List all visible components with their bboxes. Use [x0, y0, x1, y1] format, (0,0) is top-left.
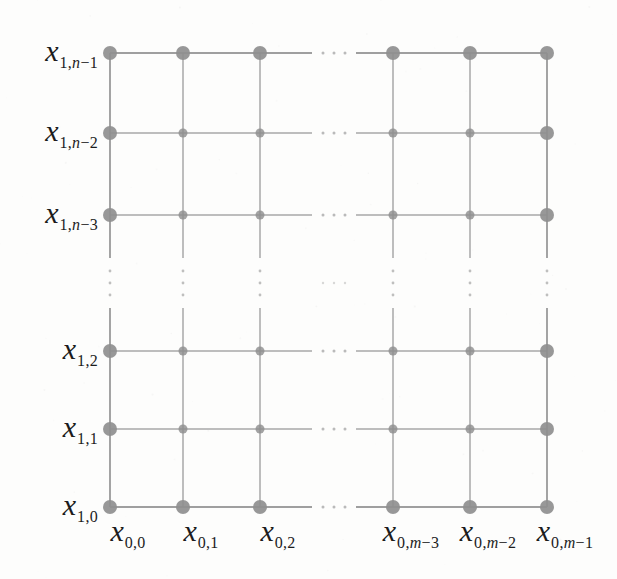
boundary-node [103, 46, 117, 60]
ellipsis-dot [109, 270, 112, 273]
boundary-node [540, 500, 554, 514]
interior-node [389, 211, 398, 220]
ellipsis-dot [322, 214, 325, 217]
grid-lattice-figure: x1,n−1x1,n−2x1,n−3x1,2x1,1x1,0 x0,0x0,1x… [0, 0, 617, 579]
ellipsis-dot [344, 52, 347, 55]
boundary-node [540, 422, 554, 436]
interior-node [466, 211, 475, 220]
boundary-node [103, 500, 117, 514]
grid-nodes-layer [103, 46, 554, 514]
ellipsis-dot [259, 294, 262, 297]
ellipsis-dot [322, 350, 325, 353]
ellipsis-dot [182, 282, 185, 285]
boundary-node [253, 46, 267, 60]
ellipsis-dot [469, 270, 472, 273]
boundary-node [176, 46, 190, 60]
ellipsis-dot [322, 282, 324, 284]
boundary-node [386, 500, 400, 514]
ellipsis-dot [322, 132, 325, 135]
ellipsis-dot [469, 282, 472, 285]
boundary-node [176, 500, 190, 514]
ellipsis-dot [392, 270, 395, 273]
ellipsis-dot [182, 270, 185, 273]
ellipsis-dot [259, 282, 262, 285]
ellipsis-dot [109, 294, 112, 297]
interior-node [389, 129, 398, 138]
boundary-node [103, 208, 117, 222]
interior-node [466, 425, 475, 434]
ellipsis-dot [322, 506, 325, 509]
boundary-node [540, 126, 554, 140]
ellipsis-dot [344, 214, 347, 217]
ellipsis-dot [333, 282, 335, 284]
ellipsis-dot [333, 132, 336, 135]
ellipsis-dot [322, 52, 325, 55]
interior-node [179, 129, 188, 138]
boundary-node [540, 208, 554, 222]
interior-node [256, 129, 265, 138]
ellipsis-dot [333, 52, 336, 55]
ellipsis-dot [546, 270, 549, 273]
column-label-5: x0,m−1 [537, 516, 593, 551]
row-label-5: x1,0 [63, 490, 98, 525]
boundary-node [253, 500, 267, 514]
boundary-node [103, 422, 117, 436]
column-label-4: x0,m−2 [460, 516, 516, 551]
row-label-2: x1,n−3 [45, 198, 98, 233]
ellipsis-dot [333, 214, 336, 217]
ellipsis-dot [344, 428, 347, 431]
grid-lines-layer [110, 53, 547, 507]
ellipsis-dot [546, 282, 549, 285]
interior-node [389, 347, 398, 356]
boundary-node [463, 500, 477, 514]
ellipsis-dot [392, 282, 395, 285]
ellipsis-dots-layer [109, 52, 549, 509]
row-label-1: x1,n−2 [45, 116, 98, 151]
interior-node [256, 347, 265, 356]
boundary-node [463, 46, 477, 60]
ellipsis-dot [344, 350, 347, 353]
ellipsis-dot [344, 506, 347, 509]
ellipsis-dot [182, 294, 185, 297]
boundary-node [386, 46, 400, 60]
row-label-3: x1,2 [63, 334, 98, 369]
column-label-1: x0,1 [183, 516, 218, 551]
row-label-4: x1,1 [63, 412, 98, 447]
interior-node [179, 425, 188, 434]
interior-node [389, 425, 398, 434]
ellipsis-dot [322, 428, 325, 431]
column-label-2: x0,2 [260, 516, 295, 551]
interior-node [256, 425, 265, 434]
ellipsis-dot [259, 270, 262, 273]
ellipsis-dot [333, 350, 336, 353]
ellipsis-dot [344, 132, 347, 135]
boundary-node [540, 344, 554, 358]
column-label-3: x0,m−3 [383, 516, 439, 551]
interior-node [179, 347, 188, 356]
boundary-node [540, 46, 554, 60]
row-label-0: x1,n−1 [45, 36, 98, 71]
interior-node [466, 347, 475, 356]
ellipsis-dot [333, 428, 336, 431]
boundary-node [103, 126, 117, 140]
interior-node [466, 129, 475, 138]
ellipsis-dot [344, 282, 346, 284]
ellipsis-dot [392, 294, 395, 297]
ellipsis-dot [333, 506, 336, 509]
interior-node [179, 211, 188, 220]
boundary-node [103, 344, 117, 358]
ellipsis-dot [546, 294, 549, 297]
interior-node [256, 211, 265, 220]
column-label-0: x0,0 [110, 516, 145, 551]
ellipsis-dot [469, 294, 472, 297]
ellipsis-dot [109, 282, 112, 285]
